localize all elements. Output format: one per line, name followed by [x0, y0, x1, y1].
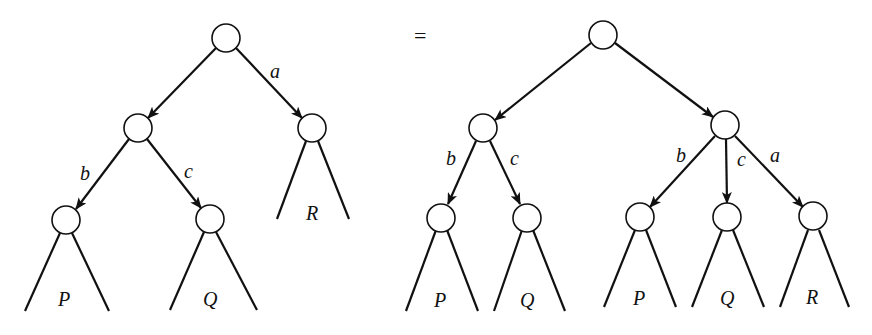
edge-root-to-right-a: [236, 48, 302, 118]
node-root: [589, 21, 617, 49]
subtree-label-r: R: [305, 202, 318, 224]
edge-label-c-left: c: [510, 147, 519, 169]
edge-label-a: a: [270, 60, 280, 82]
edge-label-b: b: [80, 162, 90, 184]
edge-label-a-right: a: [770, 144, 780, 166]
edge-right-to-q-c: [726, 139, 727, 203]
subtree-label-q: Q: [203, 288, 218, 310]
node-right: [298, 114, 326, 142]
node-right: [711, 111, 739, 139]
node-q1: [513, 204, 541, 232]
node-p: [52, 206, 80, 234]
edge-label-b-left: b: [446, 147, 456, 169]
edge-left-to-q-c: [147, 139, 201, 208]
right-tree-labels: b c b c a P Q P Q R: [433, 144, 818, 311]
equals-sign: =: [414, 23, 426, 48]
node-q: [196, 205, 224, 233]
tree-equivalence-diagram: a b c P Q R =: [0, 0, 872, 335]
edge-root-to-right: [615, 43, 713, 117]
subtree-label-p2: P: [632, 287, 645, 309]
right-tree: [406, 21, 849, 311]
node-p1: [427, 204, 455, 232]
node-q2: [713, 203, 741, 231]
edge-right-to-r-a: [735, 136, 803, 207]
node-p2: [626, 203, 654, 231]
node-root: [212, 24, 240, 52]
edge-root-to-left: [148, 48, 216, 118]
edge-root-to-left: [495, 43, 591, 120]
edge-label-c: c: [184, 160, 193, 182]
edge-label-c-right: c: [737, 148, 746, 170]
node-left: [469, 114, 497, 142]
subtree-label-r2: R: [805, 286, 818, 308]
subtree-label-p: P: [57, 288, 70, 310]
edge-label-b-right: b: [676, 144, 686, 166]
left-tree-labels: a b c P Q R: [57, 60, 318, 310]
node-r2: [799, 202, 827, 230]
subtree-label-p1: P: [433, 289, 446, 311]
subtree-label-q1: Q: [520, 289, 535, 311]
node-left: [124, 114, 152, 142]
subtree-label-q2: Q: [720, 287, 735, 309]
